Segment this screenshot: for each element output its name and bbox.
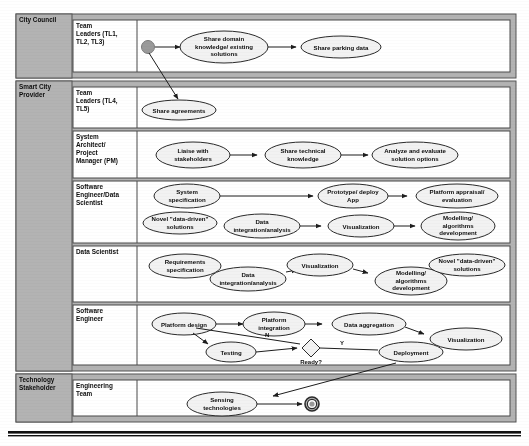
start-event-node[interactable] <box>142 41 155 54</box>
pool-city-council: City Council Team Leaders (TL1, TL2, TL3… <box>16 14 516 78</box>
lane-label-sapm-line1: System <box>76 133 99 141</box>
node-sysspec-line2: specification <box>168 196 206 203</box>
pool-label-smart-city-provider-line1: Smart City <box>19 83 51 91</box>
lane-team-leaders-123 <box>73 20 510 72</box>
lane-label-team-leaders-45-line1: Team <box>76 89 93 96</box>
node-model1-line1: Modelling/ <box>443 214 473 221</box>
node-share-domain-line2: knowledge/ existing <box>195 43 253 50</box>
lane-label-seds-line3: Scientist <box>76 199 104 206</box>
lane-label-sapm-line3: Project <box>76 149 99 157</box>
node-novel1-line1: Novel "data-driven" <box>152 215 209 222</box>
diagram-root: City Council Team Leaders (TL1, TL2, TL3… <box>0 0 529 446</box>
node-prototype-line2: App <box>347 196 359 203</box>
node-share-agreements-label: Share agreements <box>153 107 206 114</box>
node-model2-line1: Modelling/ <box>396 269 426 276</box>
pool-smart-city-provider: Smart City Provider Team Leaders (TL4, T… <box>16 53 516 371</box>
node-novel2-line1: Novel "data-driven" <box>439 257 496 264</box>
pool-label-technology-stakeholder-line1: Technology <box>19 376 55 384</box>
lane-label-sapm-line4: Manager (PM) <box>76 157 118 165</box>
lane-engineering-team <box>73 380 510 416</box>
node-platint-line2: integration <box>258 324 290 331</box>
node-model1-line3: development <box>439 229 477 236</box>
pool-city-council-header <box>16 14 72 78</box>
node-dataagg-label: Data aggregation <box>344 321 394 328</box>
pool-smart-city-provider-header <box>16 81 72 371</box>
node-vis1-label: Visualization <box>342 223 379 230</box>
node-analyze-line2: solution options <box>391 155 439 162</box>
node-liaise-line2: stakeholders <box>174 155 212 162</box>
node-model1-line2: algorithms <box>442 222 474 229</box>
node-novel1-line2: solutions <box>166 223 194 230</box>
gateway-ready-label: Ready? <box>300 359 322 365</box>
swimlane-canvas: City Council Team Leaders (TL1, TL2, TL3… <box>0 0 529 446</box>
edge-label-no: N <box>265 332 269 338</box>
node-testing-label: Testing <box>220 349 241 356</box>
node-share-parking-label: Share parking data <box>314 44 369 51</box>
lane-label-team-leaders-123-line3: TL2, TL3) <box>76 38 104 46</box>
lane-label-team-leaders-45-line2: Leaders (TL4, <box>76 97 118 105</box>
node-sensing-line1: Sensing <box>210 396 234 403</box>
pool-label-city-council: City Council <box>19 16 57 24</box>
edge-label-yes: Y <box>340 340 344 346</box>
bottom-rule-thin <box>8 435 521 436</box>
bottom-rule <box>8 431 521 434</box>
node-analyze-line1: Analyze and evaluate <box>384 147 446 154</box>
node-dataint1-line2: integration/analysis <box>233 226 291 233</box>
node-platform-design-label: Platform design <box>161 321 207 328</box>
lane-label-team-leaders-45-line3: TL5) <box>76 105 90 113</box>
node-vis3-label: Visualization <box>447 336 484 343</box>
node-appraisal-line2: evaluation <box>442 196 472 203</box>
node-sysspec-line1: System <box>176 188 198 195</box>
lane-label-team-leaders-123-line1: Team <box>76 22 93 29</box>
lane-label-se-line1: Software <box>76 307 103 314</box>
node-liaise-line1: Liaise with <box>177 147 208 154</box>
node-dataint2-line2: integration/analysis <box>219 279 277 286</box>
node-appraisal-line1: Platform appraisal/ <box>430 188 485 195</box>
node-model2-line2: algorithms <box>395 277 427 284</box>
node-model2-line3: development <box>392 284 430 291</box>
lane-label-engineering-team-line1: Engineering <box>76 382 113 390</box>
lane-label-sapm-line2: Architect/ <box>76 141 106 148</box>
lane-label-se-line2: Engineer <box>76 315 104 323</box>
pool-label-smart-city-provider-line2: Provider <box>19 91 45 98</box>
node-reqspec-line1: Requirements <box>165 258 206 265</box>
node-prototype-line1: Prototype/ deploy <box>327 188 379 195</box>
node-share-tech-line2: knowledge <box>287 155 319 162</box>
lane-label-seds-line1: Software <box>76 183 103 190</box>
node-share-tech-line1: Share technical <box>280 147 325 154</box>
node-dataint2-line1: Data <box>241 271 255 278</box>
node-deployment-label: Deployment <box>394 349 429 356</box>
end-event-node[interactable] <box>305 397 319 411</box>
lane-label-seds-line2: Engineer/Data <box>76 191 119 199</box>
node-novel2-line2: solutions <box>453 265 481 272</box>
node-vis2-label: Visualization <box>301 262 338 269</box>
lane-team-leaders-45 <box>73 87 510 128</box>
node-dataint1-line1: Data <box>255 218 269 225</box>
lane-label-team-leaders-123-line2: Leaders (TL1, <box>76 30 118 38</box>
node-sensing-line2: technologies <box>203 404 241 411</box>
pool-label-technology-stakeholder-line2: Stakeholder <box>19 384 56 391</box>
pool-technology-stakeholder: Technology Stakeholder Engineering Team … <box>16 363 516 422</box>
node-share-domain-line1: Share domain <box>204 35 245 42</box>
node-reqspec-line2: specification <box>166 266 204 273</box>
lane-label-data-scientist: Data Scientist <box>76 248 119 255</box>
node-share-domain-line3: solutions <box>210 50 238 57</box>
lane-label-engineering-team-line2: Team <box>76 390 93 397</box>
node-platint-line1: Platform <box>262 316 287 323</box>
